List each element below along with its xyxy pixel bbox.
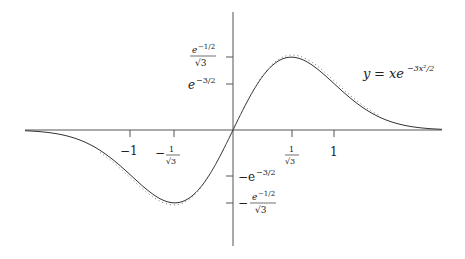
y-label-min-num: e <box>252 192 257 202</box>
x-label-neg1: −1 <box>120 144 138 158</box>
y-label-e32: e <box>188 78 195 92</box>
x-label-neg-inv-sqrt3-num: 1 <box>169 145 174 154</box>
y-label-min-minus: − <box>238 196 248 210</box>
y-label-min-den: √3 <box>255 205 267 215</box>
x-label-inv-sqrt3-num: 1 <box>289 145 294 154</box>
y-label-max-num: e <box>192 45 197 55</box>
equation-eq: = <box>374 66 385 81</box>
y-label-e32-exp: −3/2 <box>196 76 216 85</box>
y-label-neg-e32: −e <box>238 170 255 184</box>
x-label-1: 1 <box>330 145 338 159</box>
function-plot: −1 − 1 √3 1 √3 1 e −1/2 √3 e −3/2 −e −3/… <box>0 0 465 259</box>
y-label-neg-e32-exp: −3/2 <box>256 168 276 177</box>
y-label-max-den: √3 <box>195 58 207 68</box>
equation-xe: xe <box>389 66 404 81</box>
y-label-max-num-exp: −1/2 <box>198 43 215 51</box>
equation-exponent: −3x²/2 <box>407 64 434 73</box>
equation-y: y <box>362 66 371 81</box>
x-label-inv-sqrt3-den: √3 <box>285 157 295 166</box>
x-label-neg-inv-sqrt3-minus: − <box>155 146 165 160</box>
x-label-neg-inv-sqrt3-den: √3 <box>166 157 176 166</box>
y-label-min-num-exp: −1/2 <box>258 190 275 198</box>
